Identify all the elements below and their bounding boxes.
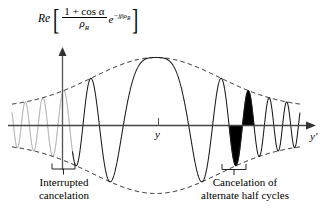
horizontal-axis-label: y′ bbox=[310, 130, 317, 142]
right-annotation-caption: Cancelation of alternate half cycles bbox=[170, 176, 320, 201]
formula-exponential: e −jβρR bbox=[109, 14, 131, 25]
formula-operator: Re bbox=[38, 13, 50, 25]
figure-container: Re [ 1 + cos α ρR e −jβρR ] y y′ Interru… bbox=[0, 0, 325, 211]
formula-exponent: −jβρR bbox=[113, 13, 130, 22]
right-annotation-line2: alternate half cycles bbox=[170, 189, 320, 202]
amplitude-axis-formula: Re [ 1 + cos α ρR e −jβρR ] bbox=[38, 6, 140, 32]
formula-bracket-open: [ bbox=[53, 7, 59, 30]
origin-tick-label: y bbox=[155, 128, 160, 140]
formula-numerator: 1 + cos α bbox=[62, 6, 106, 17]
left-annotation-line1: Interrupted bbox=[6, 176, 122, 189]
formula-denominator: ρR bbox=[78, 18, 92, 32]
left-annotation-caption: Interrupted cancelation bbox=[6, 176, 122, 201]
left-annotation-line2: cancelation bbox=[6, 189, 122, 202]
formula-bracket-close: ] bbox=[132, 7, 138, 30]
formula-fraction: 1 + cos α ρR bbox=[62, 6, 106, 32]
right-annotation-line1: Cancelation of bbox=[170, 176, 320, 189]
